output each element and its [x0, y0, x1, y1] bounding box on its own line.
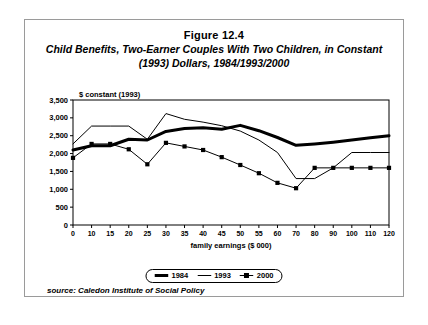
x-axis-tick-label: 110 [365, 230, 376, 237]
x-axis-tick-label: 80 [311, 230, 319, 237]
y-axis-tick-label: 2,500 [49, 131, 68, 140]
data-point-marker [108, 142, 112, 146]
data-point-marker [313, 166, 317, 170]
figure-number: Figure 12.4 [25, 28, 403, 42]
x-axis-tick-label: 30 [162, 230, 170, 237]
legend-item-2000[interactable]: 2000 [240, 271, 274, 280]
x-axis-tick-label: 70 [292, 230, 300, 237]
y-axis-tick-label: 0 [64, 221, 68, 230]
chart-plot-container: $ constant (1993)05001,0001,5002,0002,50… [25, 88, 405, 258]
x-axis-tick-label: 0 [71, 230, 75, 237]
y-axis-tick-label: 3,500 [49, 96, 68, 105]
legend-swatch-thin-line [197, 271, 211, 280]
x-axis-tick-label: 35 [181, 230, 189, 237]
x-axis-tick-label: 100 [346, 230, 358, 237]
chart-legend: 1984 1993 2000 [145, 269, 282, 283]
plot-frame [73, 100, 389, 225]
y-axis-tick-label: 1,000 [49, 185, 68, 194]
data-point-marker [387, 166, 391, 170]
x-axis-tick-label: 40 [199, 230, 207, 237]
x-axis-tick-label: 50 [236, 230, 244, 237]
y-axis-tick-label: 500 [55, 203, 68, 212]
legend-label-1984: 1984 [171, 271, 188, 280]
x-axis-tick-label: 15 [106, 230, 114, 237]
y-axis-tick-label: 3,000 [49, 113, 68, 122]
x-axis-tick-label: 10 [88, 230, 96, 237]
line-chart: $ constant (1993)05001,0001,5002,0002,50… [25, 88, 405, 258]
series-1984 [73, 125, 389, 150]
series-1993 [73, 114, 389, 179]
data-point-marker [127, 147, 131, 151]
y-axis-unit-label: $ constant (1993) [79, 90, 141, 99]
data-point-marker [294, 186, 298, 190]
legend-item-1993[interactable]: 1993 [197, 271, 231, 280]
data-point-marker [331, 166, 335, 170]
y-axis-tick-label: 1,500 [49, 167, 68, 176]
series-2000 [71, 141, 391, 191]
legend-swatch-square-marker-line [240, 271, 254, 280]
data-point-marker [145, 162, 149, 166]
legend-item-1984[interactable]: 1984 [154, 271, 188, 280]
source-note: source: Caledon Institute of Social Poli… [47, 286, 204, 295]
data-point-marker [164, 141, 168, 145]
x-axis-title: family earnings ($ 000) [191, 241, 272, 250]
x-axis-tick-label: 20 [125, 230, 133, 237]
data-point-marker [89, 142, 93, 146]
legend-label-2000: 2000 [257, 271, 274, 280]
data-point-marker [220, 155, 224, 159]
x-axis-tick-label: 55 [255, 230, 263, 237]
series-line-1993 [73, 114, 389, 179]
x-axis-tick-label: 120 [383, 230, 395, 237]
data-point-marker [201, 148, 205, 152]
series-line-2000 [73, 143, 389, 188]
figure-frame: Figure 12.4 Child Benefits, Two-Earner C… [24, 19, 404, 297]
x-axis-tick-label: 45 [218, 230, 226, 237]
data-point-marker [350, 166, 354, 170]
data-point-marker [182, 144, 186, 148]
data-point-marker [71, 156, 75, 160]
data-point-marker [238, 163, 242, 167]
data-point-marker [368, 166, 372, 170]
figure-title-block: Figure 12.4 Child Benefits, Two-Earner C… [25, 28, 403, 70]
page-title: Child Benefits, Two-Earner Couples With … [25, 42, 403, 70]
legend-label-1993: 1993 [214, 271, 231, 280]
data-point-marker [257, 171, 261, 175]
series-line-1984 [73, 125, 389, 150]
data-point-marker [275, 181, 279, 185]
x-axis-tick-label: 60 [274, 230, 282, 237]
x-axis-tick-label: 90 [329, 230, 337, 237]
legend-swatch-thick-line [154, 271, 168, 280]
x-axis-tick-label: 25 [143, 230, 151, 237]
y-axis-tick-label: 2,000 [49, 149, 68, 158]
